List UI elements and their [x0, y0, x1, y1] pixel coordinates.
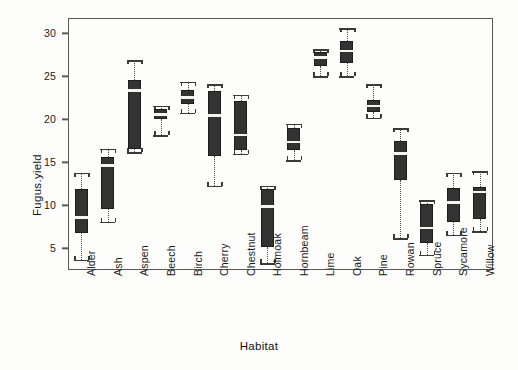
whisker-cap-tick: [207, 182, 209, 186]
whisker-cap-tick: [141, 148, 143, 152]
whisker-cap-tick: [460, 173, 462, 177]
whisker-cap-tick: [473, 227, 475, 231]
whisker-cap-tick: [301, 156, 303, 160]
box-iqr: [287, 128, 300, 150]
whisker-cap-upper: [286, 124, 301, 126]
whisker-cap-tick: [487, 227, 489, 231]
x-tick-label-spruce: Spruce: [431, 242, 443, 276]
whisker-cap-tick: [234, 150, 236, 154]
whisker-lower: [294, 150, 295, 159]
whisker-cap-tick: [154, 131, 156, 135]
box-iqr: [75, 189, 88, 233]
whisker-lower: [214, 156, 215, 186]
y-tick-label: 15: [44, 156, 56, 168]
median-line: [287, 141, 300, 144]
whisker-cap-tick: [366, 84, 368, 88]
whisker-cap-tick: [207, 84, 209, 88]
whisker-cap-tick: [380, 84, 382, 88]
whisker-cap-tick: [446, 173, 448, 177]
x-tick-label-lime: Lime: [324, 252, 336, 276]
whisker-cap-lower: [180, 113, 195, 115]
whisker-upper: [400, 128, 401, 141]
median-line: [420, 227, 433, 230]
whisker-lower: [108, 209, 109, 222]
whisker-cap-lower: [233, 154, 248, 156]
whisker-cap-tick: [393, 234, 395, 238]
y-tick-mark: [62, 119, 68, 120]
whisker-cap-upper: [393, 128, 408, 130]
whisker-cap-tick: [434, 200, 436, 204]
boxplot-figure: 51015202530 Fugus.yield Habitat AlderAsh…: [0, 0, 518, 370]
whisker-lower: [188, 104, 189, 113]
y-tick-label: 25: [44, 70, 56, 82]
whisker-cap-tick: [74, 173, 76, 177]
whisker-lower: [427, 243, 428, 254]
whisker-lower: [347, 63, 348, 77]
x-tick-label-holmoak: Holmoak: [271, 233, 283, 276]
median-line: [75, 216, 88, 219]
whisker-cap-tick: [366, 114, 368, 118]
y-tick-mark: [62, 76, 68, 77]
whisker-cap-tick: [327, 72, 329, 76]
x-tick-label-chestnut: Chestnut: [245, 232, 257, 276]
whisker-cap-tick: [301, 124, 303, 128]
whisker-cap-upper: [472, 171, 487, 173]
whisker-cap-tick: [221, 182, 223, 186]
whisker-cap-lower: [393, 238, 408, 240]
whisker-upper: [134, 60, 135, 80]
whisker-cap-tick: [141, 60, 143, 64]
box-iqr: [234, 101, 247, 149]
box-iqr: [447, 188, 460, 222]
whisker-lower: [480, 219, 481, 231]
x-tick-label-ash: Ash: [112, 257, 124, 276]
x-tick-label-sycamore: Sycamore: [457, 227, 469, 276]
median-line: [101, 164, 114, 167]
x-tick-label-birch: Birch: [192, 251, 204, 276]
whisker-cap-tick: [354, 72, 356, 76]
whisker-cap-tick: [74, 256, 76, 260]
median-line: [394, 152, 407, 155]
whisker-cap-tick: [234, 95, 236, 99]
whisker-cap-tick: [327, 49, 329, 53]
whisker-cap-tick: [101, 218, 103, 222]
whisker-cap-tick: [420, 251, 422, 255]
whisker-cap-tick: [393, 128, 395, 132]
whisker-cap-upper: [207, 84, 222, 86]
whisker-cap-tick: [127, 148, 129, 152]
y-tick-label: 30: [44, 27, 56, 39]
median-line: [208, 114, 221, 117]
whisker-cap-tick: [168, 106, 170, 110]
whisker-cap-tick: [101, 149, 103, 153]
whisker-cap-upper: [233, 95, 248, 97]
median-line: [367, 105, 380, 108]
median-line: [234, 134, 247, 137]
whisker-cap-lower: [100, 222, 115, 224]
median-line: [447, 201, 460, 204]
y-tick-mark: [62, 248, 68, 249]
whisker-lower: [81, 233, 82, 260]
whisker-cap-tick: [354, 28, 356, 32]
whisker-lower: [320, 66, 321, 76]
whisker-cap-lower: [207, 186, 222, 188]
median-line: [128, 89, 141, 92]
whisker-cap-tick: [313, 72, 315, 76]
whisker-cap-upper: [100, 149, 115, 151]
whisker-lower: [267, 247, 268, 263]
whisker-cap-tick: [287, 156, 289, 160]
whisker-cap-tick: [473, 171, 475, 175]
whisker-lower: [161, 119, 162, 135]
whisker-cap-tick: [181, 82, 183, 86]
whisker-cap-tick: [181, 109, 183, 113]
y-tick-mark: [62, 162, 68, 163]
y-tick-label: 10: [44, 199, 56, 211]
y-tick-label: 5: [50, 242, 56, 254]
whisker-cap-upper: [180, 82, 195, 84]
whisker-cap-upper: [366, 84, 381, 86]
whisker-cap-lower: [153, 135, 168, 137]
whisker-cap-tick: [407, 128, 409, 132]
x-tick-label-alder: Alder: [85, 250, 97, 276]
whisker-cap-tick: [274, 186, 276, 190]
whisker-cap-tick: [115, 218, 117, 222]
whisker-cap-tick: [195, 109, 197, 113]
whisker-cap-tick: [195, 82, 197, 86]
